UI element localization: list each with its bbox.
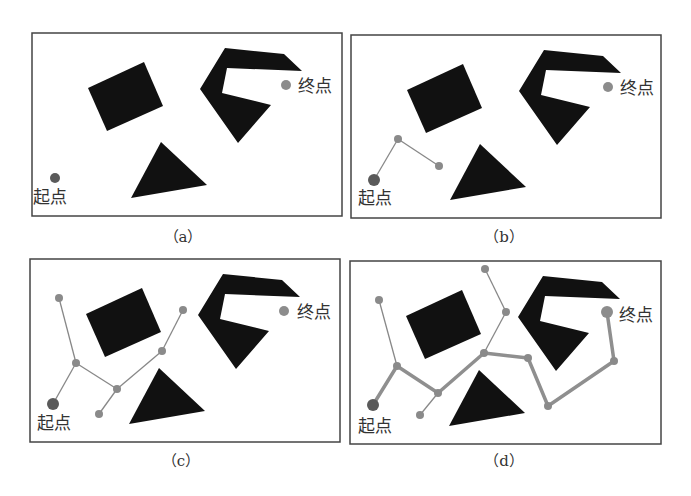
start-label: 起点 [358, 416, 392, 436]
panel-b: 起点终点（b） [351, 35, 661, 246]
goal-point [279, 306, 289, 316]
tree-node [416, 411, 424, 419]
goal-point [601, 306, 613, 318]
rrt-path-planning-figure: 起点终点（a）起点终点（b）起点终点（c）起点终点（d） [0, 0, 691, 496]
tree-node [179, 306, 187, 314]
tree-node [435, 162, 443, 170]
panel-c: 起点终点（c） [30, 259, 340, 470]
panel-caption: （c） [162, 452, 200, 470]
start-point [50, 173, 60, 183]
tree-node [95, 410, 103, 418]
tree-node [480, 349, 488, 357]
panel-caption: （d） [484, 452, 524, 470]
goal-point [281, 80, 291, 90]
panel-border [30, 259, 340, 442]
goal-label: 终点 [297, 302, 331, 322]
tree-node [158, 347, 166, 355]
tree-node [72, 359, 80, 367]
goal-label: 终点 [620, 78, 654, 98]
panel-d: 起点终点（d） [350, 261, 661, 470]
start-label: 起点 [37, 413, 71, 433]
tree-node [113, 385, 121, 393]
panel-caption: （a） [164, 228, 203, 246]
tree-node [481, 265, 489, 273]
tree-node [393, 362, 401, 370]
goal-point [603, 82, 613, 92]
tree-node [55, 294, 63, 302]
start-label: 起点 [358, 188, 392, 208]
tree-node [394, 135, 402, 143]
tree-node [502, 308, 510, 316]
panel-caption: （b） [484, 228, 524, 246]
start-point [47, 398, 59, 410]
panel-a: 起点终点（a） [32, 33, 342, 246]
tree-node [544, 402, 552, 410]
start-point [368, 174, 380, 186]
panels-root: 起点终点（a）起点终点（b）起点终点（c）起点终点（d） [30, 33, 661, 470]
tree-node [524, 354, 532, 362]
panel-border [32, 33, 342, 216]
start-point [367, 399, 379, 411]
tree-node [434, 389, 442, 397]
tree-node [375, 296, 383, 304]
start-label: 起点 [33, 187, 67, 207]
goal-label: 终点 [298, 76, 332, 96]
panel-border [351, 35, 661, 218]
goal-label: 终点 [619, 305, 653, 325]
tree-node [610, 357, 618, 365]
